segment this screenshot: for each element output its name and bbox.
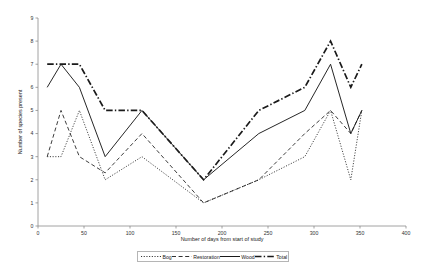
chart-container: 0123456789 050100150200250300350400 Numb… — [0, 0, 423, 275]
legend-label-bog: Bog — [163, 254, 172, 260]
series-line-restoration — [47, 110, 362, 202]
x-tick-label: 100 — [126, 230, 135, 236]
y-axis-ticks: 0123456789 — [31, 15, 38, 229]
legend-item-bog: Bog — [141, 253, 172, 260]
x-tick-label: 350 — [356, 230, 365, 236]
chart-plot-area: 0123456789 050100150200250300350400 Numb… — [0, 0, 423, 275]
legend-swatch-wood-icon — [220, 253, 240, 260]
legend-swatch-bog-icon — [141, 253, 161, 260]
x-tick-label: 200 — [218, 230, 227, 236]
legend-label-total: Total — [276, 254, 287, 260]
series-line-total — [47, 41, 362, 180]
y-tick-label: 1 — [31, 200, 34, 206]
y-tick-label: 8 — [31, 38, 34, 44]
legend-label-wood: Wood — [241, 254, 254, 260]
y-tick-label: 7 — [31, 61, 34, 67]
legend-swatch-total-icon — [255, 253, 275, 260]
x-axis-title: Number of days from start of study — [181, 236, 264, 242]
y-tick-label: 3 — [31, 154, 34, 160]
x-tick-label: 400 — [402, 230, 411, 236]
x-tick-label: 150 — [172, 230, 181, 236]
y-tick-label: 9 — [31, 15, 34, 21]
legend-item-total: Total — [255, 253, 287, 260]
x-tick-label: 300 — [310, 230, 319, 236]
y-tick-label: 4 — [31, 130, 34, 136]
y-tick-label: 6 — [31, 84, 34, 90]
y-tick-label: 5 — [31, 107, 34, 113]
x-axis-ticks: 050100150200250300350400 — [37, 226, 411, 236]
x-tick-label: 250 — [264, 230, 273, 236]
legend-item-wood: Wood — [220, 253, 255, 260]
legend-label-restoration: Restoration — [193, 254, 220, 260]
chart-legend: Bog Restoration Wood Total — [137, 251, 289, 262]
series-line-wood — [47, 64, 362, 180]
legend-swatch-restoration-icon — [172, 253, 192, 260]
x-tick-label: 0 — [37, 230, 40, 236]
legend-item-restoration: Restoration — [172, 253, 220, 260]
x-tick-label: 50 — [81, 230, 87, 236]
y-tick-label: 2 — [31, 177, 34, 183]
y-axis-title: Number of species present — [17, 89, 23, 154]
series-line-bog — [47, 110, 362, 202]
y-tick-label: 0 — [31, 223, 34, 229]
